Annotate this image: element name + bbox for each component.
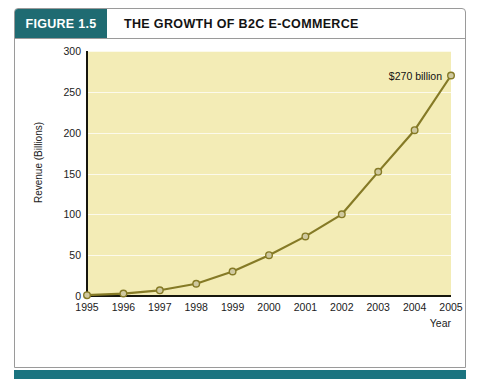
x-axis-tick-label: 1998	[185, 301, 208, 313]
figure-title: THE GROWTH OF B2C E-COMMERCE	[107, 9, 465, 38]
data-point-marker	[229, 268, 236, 275]
data-point-marker	[375, 169, 382, 176]
x-axis-tick-label: 2000	[257, 301, 280, 313]
data-point-marker	[339, 211, 346, 218]
data-point-marker	[448, 72, 455, 79]
data-point-annotation: $270 billion	[389, 70, 442, 82]
plot-frame: 050100150200250300 199519961997199819992…	[87, 51, 451, 296]
x-axis-tick-label: 2004	[403, 301, 426, 313]
footer-rule	[14, 370, 466, 379]
y-axis-title: Revenue (Billions)	[33, 93, 44, 233]
y-axis-tick-label: 100	[63, 208, 81, 220]
data-point-marker	[302, 233, 309, 240]
figure-number-badge: FIGURE 1.5	[15, 9, 107, 38]
y-axis-tick-label: 300	[63, 45, 81, 57]
x-axis-tick-label: 1999	[221, 301, 244, 313]
y-axis-tick-label: 50	[69, 249, 81, 261]
data-point-marker	[266, 252, 273, 259]
data-point-marker	[411, 127, 418, 134]
x-axis-tick-label: 1996	[112, 301, 135, 313]
y-axis-tick-label: 200	[63, 127, 81, 139]
series-line	[87, 76, 451, 296]
figure-panel: FIGURE 1.5 THE GROWTH OF B2C E-COMMERCE …	[14, 8, 466, 368]
data-point-marker	[120, 290, 127, 297]
x-axis-tick-label: 2005	[439, 301, 462, 313]
data-point-marker	[84, 292, 91, 299]
x-axis-tick-label: 2002	[330, 301, 353, 313]
figure-header: FIGURE 1.5 THE GROWTH OF B2C E-COMMERCE	[15, 9, 465, 39]
figure-caption	[16, 381, 466, 392]
x-axis-tick-label: 1997	[148, 301, 171, 313]
y-axis-tick-label: 150	[63, 168, 81, 180]
x-axis-tick-label: 1995	[75, 301, 98, 313]
chart-body: Revenue (Billions) 050100150200250300 19…	[15, 39, 465, 368]
x-axis-title: Year	[430, 317, 451, 329]
revenue-series	[87, 51, 451, 296]
x-axis-tick-label: 2003	[367, 301, 390, 313]
data-point-marker	[157, 287, 164, 294]
y-axis-tick-label: 250	[63, 86, 81, 98]
data-point-marker	[193, 280, 200, 287]
x-axis-tick-label: 2001	[294, 301, 317, 313]
